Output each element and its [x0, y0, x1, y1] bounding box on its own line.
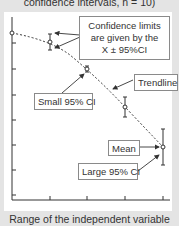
data-point-4: [161, 129, 165, 165]
x-axis: [12, 196, 170, 200]
callout-mean: Mean: [108, 140, 140, 156]
callout-ci-line2: are given by the: [83, 32, 166, 44]
data-point-0: [10, 31, 14, 35]
y-axis: [12, 17, 16, 200]
x-axis-label: Range of the independent variable: [0, 213, 179, 225]
callout-small-ci: Small 95% CI: [34, 93, 93, 110]
callout-ci-line3: X ± 95%CI: [83, 44, 166, 56]
callout-trendline: Trendline: [134, 74, 178, 91]
data-point-3: [123, 97, 127, 117]
callout-confidence-limits: Confidence limits are given by the X ± 9…: [79, 16, 170, 60]
callout-ci-line1: Confidence limits: [83, 20, 166, 32]
data-point-2: [85, 66, 89, 72]
callout-large-ci: Large 95% CI: [78, 163, 138, 180]
data-point-1: [48, 34, 52, 50]
